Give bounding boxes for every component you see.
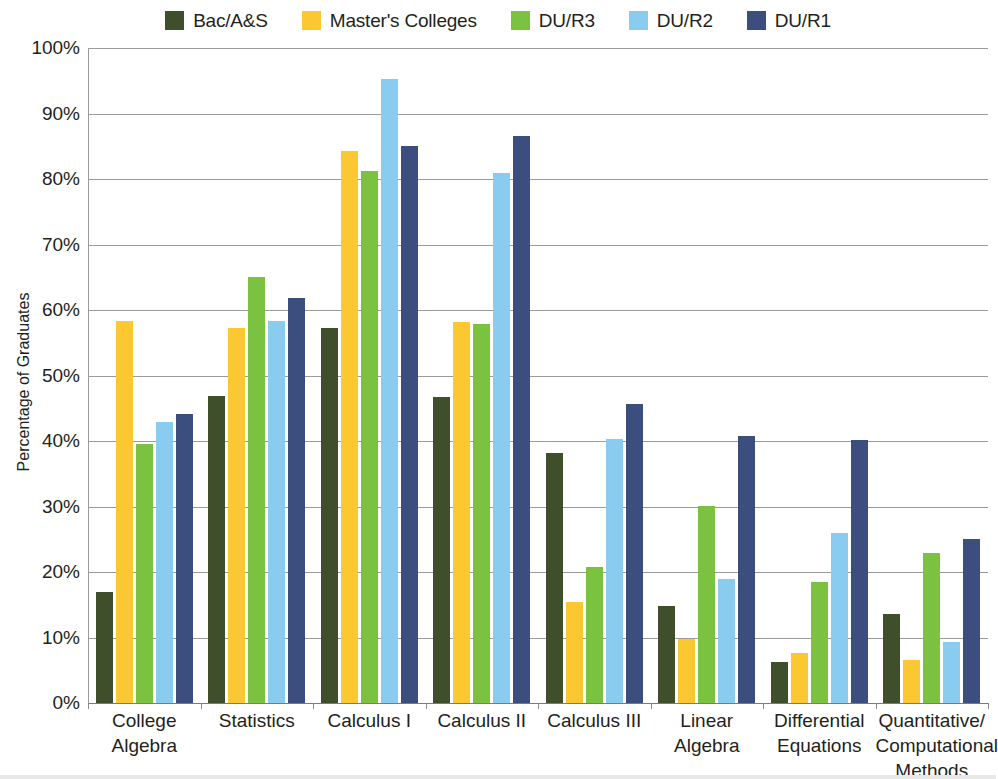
bar [586,567,603,703]
legend-item-label: DU/R1 [775,11,831,30]
bar [851,440,868,703]
bar [658,606,675,703]
legend-item: DU/R1 [747,11,831,30]
x-axis-tick-label: Statistics [201,708,314,733]
x-axis-tick [988,703,989,709]
bar [433,397,450,703]
legend-item: DU/R3 [511,11,595,30]
bar-group [426,48,539,703]
bar [473,324,490,703]
bar [156,422,173,703]
bar [811,582,828,703]
x-axis-tick-label: Calculus I [313,708,426,733]
bar [381,79,398,703]
x-axis-tick-label: Linear Algebra [651,708,764,758]
bar [513,136,530,703]
page-edge-artifact [0,775,996,779]
bar [208,396,225,703]
bar [401,146,418,703]
legend-item-label: Bac/A&S [193,11,268,30]
bar-group [88,48,201,703]
bar [361,171,378,703]
legend-item-label: DU/R2 [657,11,713,30]
y-axis-tick-label: 80% [24,169,80,188]
bar [228,328,245,703]
chart-plot-area: Percentage of Graduates 100%90%80%70%60%… [0,40,996,779]
legend-item: Master's Colleges [302,11,477,30]
y-axis-tick-label: 60% [24,300,80,319]
bar-group [538,48,651,703]
bar [963,539,980,703]
legend-swatch-bac-as [165,11,184,30]
y-axis-tick-label: 90% [24,104,80,123]
legend-swatch-du-r2 [629,11,648,30]
bar [698,506,715,703]
bar [96,592,113,703]
bar [566,602,583,703]
chart-legend: Bac/A&SMaster's CollegesDU/R3DU/R2DU/R1 [0,0,996,40]
bar [791,653,808,703]
bar-group [763,48,876,703]
x-axis-tick-label: Calculus II [426,708,539,733]
legend-item: DU/R2 [629,11,713,30]
bar [626,404,643,703]
bar [176,414,193,704]
bar [493,173,510,703]
chart-bars [88,40,988,779]
bar-group [876,48,989,703]
bar [923,553,940,703]
y-axis-tick-label: 0% [24,693,80,712]
x-axis-tick-label: College Algebra [88,708,201,758]
y-axis-tick-labels: 100%90%80%70%60%50%40%30%20%10%0% [24,40,80,779]
y-axis-tick-label: 50% [24,366,80,385]
y-axis-tick-label: 30% [24,497,80,516]
bar [903,660,920,703]
y-axis-tick-label: 70% [24,235,80,254]
y-axis-tick-label: 10% [24,628,80,647]
y-axis-tick-label: 100% [24,38,80,57]
legend-item-label: DU/R3 [539,11,595,30]
legend-swatch-masters-colleges [302,11,321,30]
bar [116,321,133,703]
bar [606,439,623,703]
y-axis-tick-label: 40% [24,431,80,450]
bar [268,321,285,703]
bar [136,444,153,703]
bar [718,579,735,703]
bar [321,328,338,703]
bar [546,453,563,703]
x-axis-tick-labels: College AlgebraStatisticsCalculus ICalcu… [88,708,988,779]
bar [678,639,695,703]
x-axis-tick-label: Quantitative/ Computational Methods [876,708,989,779]
bar [771,662,788,703]
bar [288,298,305,703]
bar [831,533,848,703]
bar [453,322,470,703]
legend-swatch-du-r3 [511,11,530,30]
x-axis-tick-label: Calculus III [538,708,651,733]
bar-group [201,48,314,703]
bar [943,642,960,703]
legend-swatch-du-r1 [747,11,766,30]
bar-group [651,48,764,703]
legend-item: Bac/A&S [165,11,268,30]
bar [248,277,265,703]
legend-item-label: Master's Colleges [330,11,477,30]
bar [883,614,900,703]
y-axis-tick-label: 20% [24,562,80,581]
bar-group [313,48,426,703]
x-axis-tick-label: Differential Equations [763,708,876,758]
bar [341,151,358,703]
bar [738,436,755,703]
